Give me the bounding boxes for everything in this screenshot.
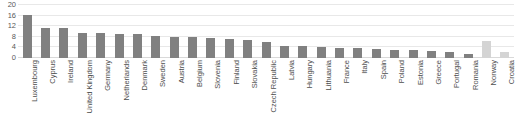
bar-slot xyxy=(36,5,54,58)
y-axis-tick-label: 0 xyxy=(12,54,16,62)
bar[interactable] xyxy=(280,46,289,58)
bar[interactable] xyxy=(317,47,326,58)
x-label-slot: Italy xyxy=(349,60,367,139)
x-label-slot: Latvia xyxy=(275,60,293,139)
bar[interactable] xyxy=(372,49,381,58)
bar-slot xyxy=(422,5,440,58)
y-axis-tick-label: 4 xyxy=(12,44,16,52)
x-label-slot: Greece xyxy=(422,60,440,139)
x-label-slot: Ireland xyxy=(55,60,73,139)
bar[interactable] xyxy=(409,50,418,58)
bar-slot xyxy=(220,5,238,58)
bar-slot xyxy=(18,5,36,58)
bar-slot xyxy=(202,5,220,58)
x-label-slot: Netherlands xyxy=(110,60,128,139)
bar[interactable] xyxy=(243,40,252,58)
bar-series xyxy=(18,5,514,58)
x-label-slot: Finland xyxy=(220,60,238,139)
bar-slot xyxy=(367,5,385,58)
bar-slot xyxy=(330,5,348,58)
bar-slot xyxy=(55,5,73,58)
bar[interactable] xyxy=(170,37,179,58)
bar[interactable] xyxy=(206,38,215,58)
bar-slot xyxy=(441,5,459,58)
bar-slot xyxy=(459,5,477,58)
x-label-slot: Slovakia xyxy=(239,60,257,139)
bar[interactable] xyxy=(335,48,344,58)
x-label-slot: Estonia xyxy=(404,60,422,139)
bar[interactable] xyxy=(390,50,399,58)
x-label-slot: Spain xyxy=(367,60,385,139)
bar-slot xyxy=(147,5,165,58)
x-label-slot: United Kingdom xyxy=(73,60,91,139)
bar[interactable] xyxy=(133,34,142,58)
x-label-slot: Hungary xyxy=(294,60,312,139)
bar[interactable] xyxy=(115,34,124,58)
x-axis-tick-label: Croatia xyxy=(508,60,516,84)
bar[interactable] xyxy=(225,39,234,58)
x-label-slot: France xyxy=(330,60,348,139)
x-axis-labels: LuxembourgCyprusIrelandUnited KingdomGer… xyxy=(18,60,514,139)
bar-slot xyxy=(239,5,257,58)
bar[interactable] xyxy=(59,28,68,58)
x-label-slot: Poland xyxy=(386,60,404,139)
x-label-slot: Norway xyxy=(477,60,495,139)
bar[interactable] xyxy=(78,33,87,58)
bar-slot xyxy=(312,5,330,58)
bar-slot xyxy=(496,5,514,58)
x-label-slot: Germany xyxy=(92,60,110,139)
bar-slot xyxy=(404,5,422,58)
bar-slot xyxy=(294,5,312,58)
x-label-slot: Denmark xyxy=(128,60,146,139)
y-axis: 048121620 xyxy=(0,0,18,58)
bar-slot xyxy=(477,5,495,58)
bar-slot xyxy=(92,5,110,58)
bar-slot xyxy=(183,5,201,58)
x-label-slot: Belgium xyxy=(183,60,201,139)
x-label-slot: Slovenia xyxy=(202,60,220,139)
bar-slot xyxy=(110,5,128,58)
bar-chart: 048121620 LuxembourgCyprusIrelandUnited … xyxy=(0,0,516,139)
bar[interactable] xyxy=(96,33,105,58)
x-label-slot: Luxembourg xyxy=(18,60,36,139)
bar[interactable] xyxy=(41,28,50,58)
bar[interactable] xyxy=(353,48,362,58)
bar-slot xyxy=(73,5,91,58)
bar[interactable] xyxy=(188,37,197,58)
y-axis-tick-label: 8 xyxy=(12,33,16,41)
x-label-slot: Sweden xyxy=(147,60,165,139)
bar[interactable] xyxy=(262,42,271,58)
bar-slot xyxy=(386,5,404,58)
bar-slot xyxy=(128,5,146,58)
bar[interactable] xyxy=(23,15,32,58)
bar[interactable] xyxy=(427,51,436,58)
bar[interactable] xyxy=(298,46,307,58)
bar-slot xyxy=(257,5,275,58)
x-label-slot: Lithuania xyxy=(312,60,330,139)
y-axis-tick-label: 20 xyxy=(8,1,16,9)
x-label-slot: Austria xyxy=(165,60,183,139)
y-axis-tick-label: 12 xyxy=(8,22,16,30)
bar-slot xyxy=(349,5,367,58)
x-label-slot: Romania xyxy=(459,60,477,139)
y-axis-tick-label: 16 xyxy=(8,12,16,20)
x-label-slot: Croatia xyxy=(496,60,514,139)
bar[interactable] xyxy=(482,41,491,58)
x-label-slot: Czech Republic xyxy=(257,60,275,139)
bar[interactable] xyxy=(151,36,160,58)
bar-slot xyxy=(275,5,293,58)
bar[interactable] xyxy=(445,52,454,58)
x-label-slot: Cyprus xyxy=(36,60,54,139)
bar[interactable] xyxy=(464,54,473,58)
bar[interactable] xyxy=(500,52,509,58)
bar-slot xyxy=(165,5,183,58)
x-label-slot: Portugal xyxy=(441,60,459,139)
